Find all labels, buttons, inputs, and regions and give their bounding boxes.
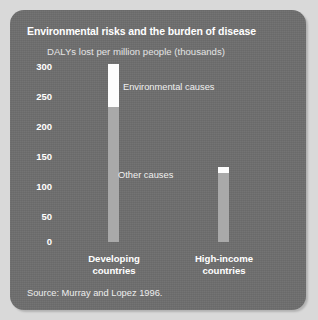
y-tick-50: 50	[16, 212, 52, 222]
category-label-line1: Developing	[54, 253, 174, 265]
category-label-line1: High-income	[164, 253, 284, 265]
bar-developing-countries	[108, 64, 119, 242]
annotation-environmental-causes: Environmental causes	[123, 82, 214, 92]
bar-segment-environmental-causes	[108, 64, 119, 107]
category-label-line2: countries	[54, 265, 174, 277]
y-tick-300: 300	[16, 62, 52, 72]
y-tick-200: 200	[16, 122, 52, 132]
plot-area: 300 250 200 150 100 50 0 Environmental c…	[10, 10, 306, 310]
category-label-high-income-countries: High-income countries	[164, 253, 284, 276]
y-tick-150: 150	[16, 152, 52, 162]
chart-panel: Environmental risks and the burden of di…	[10, 10, 306, 310]
source-note: Source: Murray and Lopez 1996.	[27, 288, 162, 298]
category-label-line2: countries	[164, 265, 284, 277]
y-tick-100: 100	[16, 182, 52, 192]
bar-high-income-countries	[218, 167, 229, 242]
bar-segment-other-causes	[218, 173, 229, 242]
y-tick-0: 0	[16, 237, 52, 247]
category-label-developing-countries: Developing countries	[54, 253, 174, 276]
annotation-other-causes: Other causes	[118, 170, 173, 180]
y-tick-250: 250	[16, 92, 52, 102]
